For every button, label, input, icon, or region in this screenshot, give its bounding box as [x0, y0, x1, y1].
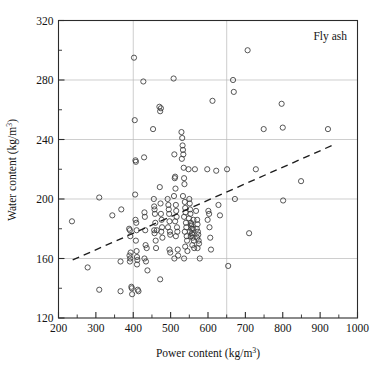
- data-point-marker: [224, 167, 229, 172]
- data-point-marker: [207, 225, 212, 230]
- data-point-marker: [153, 238, 158, 243]
- data-point-marker: [207, 211, 212, 216]
- data-point-marker: [173, 202, 178, 207]
- data-point-marker: [217, 213, 222, 218]
- data-point-marker: [158, 106, 163, 111]
- x-tick-labels: 2003004005006007008009001000: [50, 322, 369, 334]
- data-point-marker: [130, 292, 135, 297]
- data-point-marker: [173, 186, 178, 191]
- data-point-marker: [174, 208, 179, 213]
- data-point-marker: [69, 219, 74, 224]
- y-tick-label: 320: [36, 15, 54, 27]
- data-point-marker: [210, 98, 215, 103]
- data-point-marker: [119, 207, 124, 212]
- data-point-marker: [134, 220, 139, 225]
- data-point-marker: [110, 213, 115, 218]
- data-point-marker: [167, 219, 172, 224]
- data-point-marker: [280, 125, 285, 130]
- x-tick-label: 300: [87, 322, 105, 334]
- data-point-marker: [261, 126, 266, 131]
- data-point-marker: [325, 126, 330, 131]
- data-point-marker: [193, 208, 198, 213]
- data-point-marker: [179, 156, 184, 161]
- data-point-marker: [118, 289, 123, 294]
- data-point-marker: [279, 101, 284, 106]
- data-point-marker: [179, 129, 184, 134]
- data-point-marker: [158, 201, 163, 206]
- x-tick-label: 500: [162, 322, 180, 334]
- data-point-marker: [153, 245, 158, 250]
- data-point-marker: [173, 234, 178, 239]
- data-point-marker: [118, 259, 123, 264]
- data-point-marker: [181, 165, 186, 170]
- data-point-marker: [143, 243, 148, 248]
- y-tick-label: 160: [36, 253, 54, 265]
- data-point-marker: [85, 265, 90, 270]
- y-tick-label: 200: [36, 193, 54, 205]
- data-markers-group: [69, 48, 330, 297]
- data-point-marker: [245, 48, 250, 53]
- data-point-marker: [180, 193, 185, 198]
- data-point-marker: [186, 167, 191, 172]
- data-point-marker: [150, 126, 155, 131]
- data-point-marker: [208, 235, 213, 240]
- data-point-marker: [205, 167, 210, 172]
- y-axis-title: Water content (kg/m3): [5, 119, 19, 221]
- plot-frame: [59, 21, 358, 319]
- data-point-marker: [216, 202, 221, 207]
- data-point-marker: [144, 245, 149, 250]
- data-point-marker: [133, 238, 138, 243]
- data-point-marker: [182, 182, 187, 187]
- x-tick-label: 400: [125, 322, 143, 334]
- y-tick-label: 240: [36, 134, 54, 146]
- data-point-marker: [141, 155, 146, 160]
- x-axis-title: Power content (kg/m3): [156, 346, 260, 360]
- data-point-marker: [247, 231, 252, 236]
- y-tick-label: 280: [36, 74, 54, 86]
- trendline: [73, 145, 332, 260]
- data-point-marker: [173, 219, 178, 224]
- data-point-marker: [298, 179, 303, 184]
- data-point-marker: [181, 176, 186, 181]
- data-point-marker: [181, 214, 186, 219]
- chart-figure: 2003004005006007008009001000 12016020024…: [0, 0, 384, 372]
- data-point-marker: [158, 277, 163, 282]
- data-point-marker: [231, 89, 236, 94]
- y-tick-label: 120: [36, 312, 54, 324]
- gridlines-group: [59, 21, 358, 319]
- x-tick-label: 800: [274, 322, 292, 334]
- x-tick-label: 600: [199, 322, 217, 334]
- data-point-marker: [208, 247, 213, 252]
- data-point-marker: [192, 167, 197, 172]
- data-point-marker: [175, 247, 180, 252]
- data-point-marker: [195, 245, 200, 250]
- scatter-plot-svg: 2003004005006007008009001000 12016020024…: [0, 0, 384, 372]
- data-point-marker: [97, 287, 102, 292]
- x-tick-label: 1000: [346, 322, 369, 334]
- data-point-marker: [134, 248, 139, 253]
- series-annotation-label: Fly ash: [313, 30, 347, 43]
- data-point-marker: [128, 250, 133, 255]
- data-point-marker: [145, 268, 150, 273]
- y-tick-labels: 120160200240280320: [36, 15, 54, 325]
- data-point-marker: [253, 167, 258, 172]
- x-tick-label: 900: [312, 322, 330, 334]
- data-point-marker: [131, 55, 136, 60]
- data-point-marker: [160, 235, 165, 240]
- axis-ticks-group: [59, 21, 358, 319]
- data-point-marker: [214, 168, 219, 173]
- data-point-marker: [157, 185, 162, 190]
- data-point-marker: [168, 250, 173, 255]
- data-point-marker: [158, 211, 163, 216]
- data-point-marker: [205, 217, 210, 222]
- data-point-marker: [172, 152, 177, 157]
- x-tick-label: 700: [237, 322, 255, 334]
- data-point-marker: [171, 193, 176, 198]
- data-point-marker: [185, 248, 190, 253]
